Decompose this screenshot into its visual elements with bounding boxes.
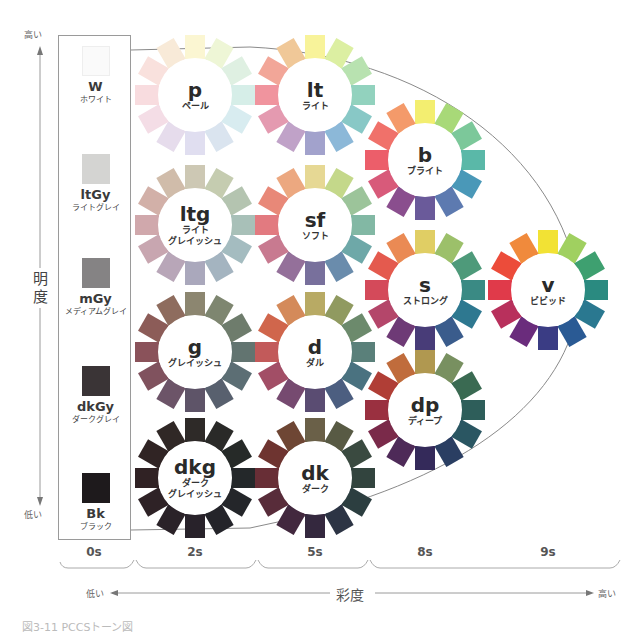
hue-tile — [305, 292, 325, 316]
hue-tile — [305, 261, 325, 285]
gray-name: ホワイト — [59, 94, 132, 105]
tone-wheel-p: pペール — [134, 34, 256, 156]
tone-name: ブライト — [407, 166, 443, 177]
tone-label: dpディープ — [388, 373, 462, 447]
tone-label: sストロング — [388, 253, 462, 327]
hue-tile — [185, 514, 205, 538]
hue-tile — [185, 418, 205, 442]
tone-code: p — [188, 79, 202, 101]
hue-tile — [185, 261, 205, 285]
tone-name: ペール — [182, 101, 209, 112]
hue-tile — [461, 280, 485, 300]
hue-tile — [231, 342, 255, 362]
hue-tile — [305, 165, 325, 189]
column-label-5s: 5s — [295, 545, 335, 559]
tone-wheel-d: dダル — [254, 291, 376, 413]
tone-wheel-v: vビビッド — [487, 229, 609, 351]
hue-tile — [255, 468, 279, 488]
tone-wheel-b: bブライト — [364, 99, 486, 221]
gray-code: dkGy — [59, 400, 132, 414]
tone-wheel-dkg: dkgダークグレイッシュ — [134, 417, 256, 539]
tone-name: ダル — [306, 358, 324, 369]
saturation-axis-title: 彩度 — [336, 584, 364, 604]
gray-name: ライトグレイ — [59, 202, 132, 213]
gray-name: ダークグレイ — [59, 414, 132, 425]
saturation-high-label: 高い — [598, 587, 616, 600]
hue-tile — [488, 280, 512, 300]
hue-tile — [461, 150, 485, 170]
hue-tile — [135, 85, 159, 105]
hue-tile — [305, 514, 325, 538]
hue-tile — [415, 196, 435, 220]
tone-code: g — [188, 336, 202, 358]
hue-tile — [135, 468, 159, 488]
tone-label: vビビッド — [511, 253, 585, 327]
swatch-Bk — [82, 473, 110, 503]
achromatic-Bk: Bk ブラック — [59, 473, 132, 532]
gray-code: W — [59, 80, 132, 94]
swatch-ltGy — [82, 154, 110, 184]
column-label-0s: 0s — [74, 545, 114, 559]
hue-tile — [351, 468, 375, 488]
tone-name: ダーク — [182, 478, 209, 489]
hue-tile — [305, 35, 325, 59]
hue-tile — [185, 292, 205, 316]
gray-code: ltGy — [59, 188, 132, 202]
tone-name: ライト — [302, 101, 329, 112]
tone-name: グレイッシュ — [168, 358, 222, 369]
tone-wheel-dk: dkダーク — [254, 417, 376, 539]
tone-label: pペール — [158, 58, 232, 132]
hue-tile — [415, 446, 435, 470]
tone-name: ライト — [182, 225, 209, 236]
tone-code: lt — [307, 79, 323, 101]
hue-tile — [231, 215, 255, 235]
swatch-dkGy — [82, 366, 110, 396]
hue-tile — [415, 230, 435, 254]
hue-tile — [185, 388, 205, 412]
tone-wheel-s: sストロング — [364, 229, 486, 351]
tone-wheel-g: gグレイッシュ — [134, 291, 256, 413]
column-label-2s: 2s — [175, 545, 215, 559]
gray-name: ブラック — [59, 521, 132, 532]
column-label-8s: 8s — [405, 545, 445, 559]
achromatic-dkGy: dkGy ダークグレイ — [59, 366, 132, 425]
saturation-low-label: 低い — [86, 587, 104, 600]
lightness-title-text: 明度 — [33, 270, 48, 306]
tone-wheel-ltg: ltgライトグレイッシュ — [134, 164, 256, 286]
hue-tile — [305, 418, 325, 442]
hue-tile — [305, 131, 325, 155]
tone-code: d — [308, 336, 322, 358]
tone-wheel-sf: sfソフト — [254, 164, 376, 286]
column-label-9s: 9s — [528, 545, 568, 559]
tone-name-line2: グレイッシュ — [168, 489, 222, 500]
tone-label: dkダーク — [278, 441, 352, 515]
achromatic-ltGy: ltGy ライトグレイ — [59, 154, 132, 213]
hue-tile — [255, 85, 279, 105]
tone-code: dp — [411, 394, 440, 416]
hue-tile — [538, 230, 558, 254]
swatch-W — [82, 46, 110, 76]
hue-tile — [135, 342, 159, 362]
tone-wheel-lt: ltライト — [254, 34, 376, 156]
lightness-axis-title: 明度 — [31, 270, 49, 306]
tone-name: ストロング — [403, 296, 448, 307]
tone-code: dkg — [174, 456, 216, 478]
hue-tile — [255, 342, 279, 362]
achromatic-W: W ホワイト — [59, 46, 132, 105]
tone-label: ltgライトグレイッシュ — [158, 188, 232, 262]
tone-name: ビビッド — [530, 296, 566, 307]
hue-tile — [538, 326, 558, 350]
tone-code: dk — [301, 462, 329, 484]
tone-code: ltg — [180, 203, 211, 225]
tone-label: dkgダークグレイッシュ — [158, 441, 232, 515]
tone-label: sfソフト — [278, 188, 352, 262]
lightness-high-label: 高い — [24, 28, 42, 41]
tone-name: ダーク — [302, 484, 329, 495]
gray-name: メディアムグレイ — [59, 306, 132, 317]
tone-label: dダル — [278, 315, 352, 389]
hue-tile — [231, 85, 255, 105]
tone-code: sf — [305, 209, 326, 231]
achromatic-panel: W ホワイト ltGy ライトグレイ mGy メディアムグレイ dkGy ダーク… — [58, 35, 131, 540]
hue-tile — [415, 350, 435, 374]
tone-name: ソフト — [302, 231, 329, 242]
